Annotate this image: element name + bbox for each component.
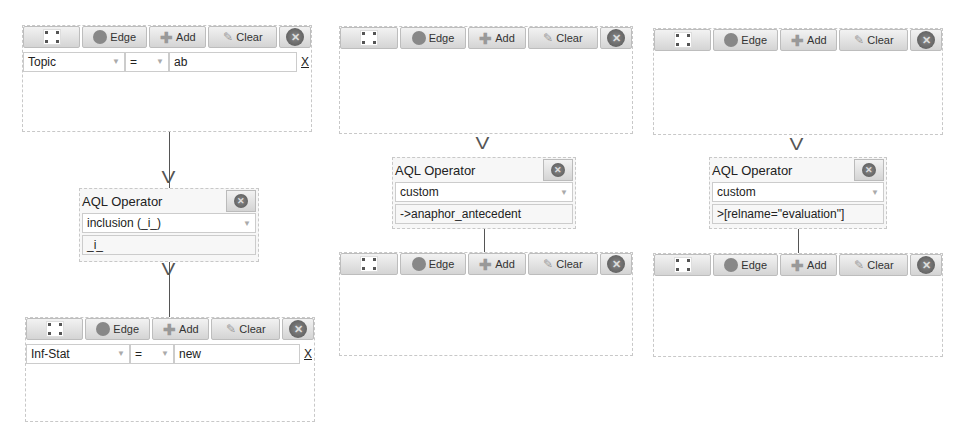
query-node-1: Edge ✚Add ✎Clear ✕ Topic▼ =▼ ab X xyxy=(22,25,312,132)
close-node-button[interactable]: ✕ xyxy=(910,254,942,276)
add-button[interactable]: ✚Add xyxy=(468,27,526,49)
dropdown-caret-icon: ▼ xyxy=(871,188,879,197)
broom-icon: ✎ xyxy=(543,257,553,271)
close-node-button[interactable]: ✕ xyxy=(910,29,942,51)
operator-type-select[interactable]: inclusion (_i_)▼ xyxy=(82,213,256,233)
clear-button[interactable]: ✎Clear xyxy=(208,26,277,48)
clear-button[interactable]: ✎Clear xyxy=(839,254,908,276)
attribute-select[interactable]: Inf-Stat▼ xyxy=(26,344,130,364)
query-node-2: Edge ✚Add ✎Clear ✕ Inf-Stat▼ =▼ new X xyxy=(25,317,315,422)
dropdown-caret-icon: ▼ xyxy=(156,57,164,66)
clear-button[interactable]: ✎Clear xyxy=(211,318,280,340)
dropdown-caret-icon: ▼ xyxy=(243,219,251,228)
expand-icon xyxy=(674,257,692,273)
broom-icon: ✎ xyxy=(854,33,864,47)
dropdown-caret-icon: ▼ xyxy=(161,349,169,358)
plus-icon: ✚ xyxy=(160,30,173,45)
connector-line xyxy=(798,229,799,253)
remove-operator-button[interactable]: ✕ xyxy=(854,159,884,181)
broom-icon: ✎ xyxy=(223,30,233,44)
operator-select[interactable]: =▼ xyxy=(125,52,169,72)
expand-button[interactable] xyxy=(23,26,80,48)
operator-type-select[interactable]: custom▼ xyxy=(395,182,573,202)
remove-condition-link[interactable]: X xyxy=(301,55,309,69)
node-toolbar: Edge ✚Add ✎Clear ✕ xyxy=(340,27,632,51)
close-circle-icon: ✕ xyxy=(607,29,625,47)
close-node-button[interactable]: ✕ xyxy=(600,27,632,49)
condition-row: Topic▼ =▼ ab X xyxy=(23,51,311,72)
node-toolbar: Edge ✚Add ✎Clear ✕ xyxy=(26,318,314,342)
remove-operator-button[interactable]: ✕ xyxy=(543,159,573,181)
plus-icon: ✚ xyxy=(791,33,804,48)
operator-expression-input[interactable]: _i_ xyxy=(82,235,256,255)
connector-line xyxy=(484,229,485,252)
aql-operator-title: AQL Operator xyxy=(712,163,792,178)
expand-button[interactable] xyxy=(340,253,398,275)
operator-type-select[interactable]: custom▼ xyxy=(712,182,884,202)
plus-icon: ✚ xyxy=(163,322,176,337)
edge-icon xyxy=(96,322,110,336)
expand-button[interactable] xyxy=(26,318,83,340)
close-circle-icon: ✕ xyxy=(607,255,625,273)
edge-icon xyxy=(93,30,107,44)
edge-button[interactable]: Edge xyxy=(713,29,778,51)
arrow-head-icon: V xyxy=(161,262,175,278)
query-node-5: Edge ✚Add ✎Clear ✕ xyxy=(653,28,943,135)
add-button[interactable]: ✚Add xyxy=(152,318,209,340)
dropdown-caret-icon: ▼ xyxy=(112,57,120,66)
expand-icon xyxy=(360,256,378,272)
close-node-button[interactable]: ✕ xyxy=(600,253,632,275)
edge-button[interactable]: Edge xyxy=(400,27,466,49)
aql-operator-box: AQL Operator✕ custom▼ ->anaphor_antecede… xyxy=(392,157,576,229)
remove-condition-link[interactable]: X xyxy=(304,347,312,361)
add-button[interactable]: ✚Add xyxy=(780,254,837,276)
close-circle-icon: ✕ xyxy=(917,31,935,49)
close-node-button[interactable]: ✕ xyxy=(282,318,314,340)
edge-button[interactable]: Edge xyxy=(713,254,778,276)
clear-button[interactable]: ✎Clear xyxy=(528,27,598,49)
edge-button[interactable]: Edge xyxy=(82,26,147,48)
attribute-select[interactable]: Topic▼ xyxy=(23,52,125,72)
value-input[interactable]: ab xyxy=(169,52,297,72)
close-circle-icon: ✕ xyxy=(286,28,304,46)
node-toolbar: Edge ✚Add ✎Clear ✕ xyxy=(23,26,311,50)
operator-expression-input[interactable]: >[relname="evaluation"] xyxy=(712,204,884,224)
add-button[interactable]: ✚Add xyxy=(780,29,837,51)
edge-button[interactable]: Edge xyxy=(400,253,466,275)
plus-icon: ✚ xyxy=(479,257,492,272)
expand-button[interactable] xyxy=(654,29,711,51)
add-button[interactable]: ✚Add xyxy=(149,26,206,48)
query-node-4: Edge ✚Add ✎Clear ✕ xyxy=(339,252,633,356)
remove-operator-button[interactable]: ✕ xyxy=(226,190,256,212)
expand-button[interactable] xyxy=(654,254,711,276)
operator-select[interactable]: =▼ xyxy=(130,344,174,364)
clear-button[interactable]: ✎Clear xyxy=(528,253,598,275)
edge-icon xyxy=(412,31,426,45)
aql-operator-box: AQL Operator✕ custom▼ >[relname="evaluat… xyxy=(709,157,887,229)
query-node-3: Edge ✚Add ✎Clear ✕ xyxy=(339,26,633,134)
dropdown-caret-icon: ▼ xyxy=(117,349,125,358)
close-node-button[interactable]: ✕ xyxy=(279,26,311,48)
close-circle-icon: ✕ xyxy=(862,163,876,177)
expand-icon xyxy=(674,32,692,48)
dropdown-caret-icon: ▼ xyxy=(560,188,568,197)
close-circle-icon: ✕ xyxy=(234,194,248,208)
add-button[interactable]: ✚Add xyxy=(468,253,526,275)
close-circle-icon: ✕ xyxy=(289,320,307,338)
expand-button[interactable] xyxy=(340,27,398,49)
broom-icon: ✎ xyxy=(226,322,236,336)
edge-button[interactable]: Edge xyxy=(85,318,150,340)
plus-icon: ✚ xyxy=(479,31,492,46)
arrow-head-icon: V xyxy=(161,170,175,186)
node-toolbar: Edge ✚Add ✎Clear ✕ xyxy=(654,29,942,53)
clear-button[interactable]: ✎Clear xyxy=(839,29,908,51)
edge-icon xyxy=(724,258,738,272)
value-input[interactable]: new xyxy=(174,344,300,364)
arrow-head-icon: V xyxy=(475,136,489,152)
operator-expression-input[interactable]: ->anaphor_antecedent xyxy=(395,204,573,224)
expand-icon xyxy=(46,321,64,337)
plus-icon: ✚ xyxy=(791,258,804,273)
edge-icon xyxy=(412,257,426,271)
close-circle-icon: ✕ xyxy=(917,256,935,274)
query-node-6: Edge ✚Add ✎Clear ✕ xyxy=(653,253,943,357)
